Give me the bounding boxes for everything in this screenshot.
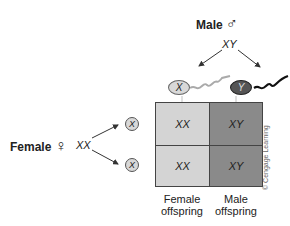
cell-female-top: XX bbox=[156, 103, 210, 146]
male-label: Male ♂ bbox=[196, 15, 238, 33]
male-genotype: XY bbox=[222, 38, 237, 50]
female-symbol-icon: ♀ bbox=[55, 137, 67, 154]
female-genotype: XX bbox=[76, 139, 91, 151]
female-offspring-label: Femaleoffspring bbox=[155, 193, 209, 217]
male-offspring-label: Maleoffspring bbox=[209, 193, 263, 217]
egg-x-bottom: X bbox=[125, 158, 139, 172]
cell-male-bottom: XY bbox=[210, 146, 262, 186]
cell-female-bottom: XX bbox=[156, 146, 210, 186]
egg-x-top: X bbox=[125, 117, 139, 131]
female-label: Female ♀ bbox=[10, 137, 67, 155]
cell-male-top: XY bbox=[210, 103, 262, 146]
sperm-x: X bbox=[168, 80, 190, 95]
credit-text: © Cengage Learning bbox=[262, 110, 274, 190]
punnett-grid: XX XY XX XY bbox=[155, 102, 263, 187]
sperm-y: Y bbox=[230, 80, 252, 95]
male-symbol-icon: ♂ bbox=[226, 15, 238, 32]
